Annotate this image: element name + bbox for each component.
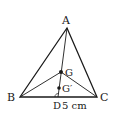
point-g-prime xyxy=(57,86,61,90)
label-d: D xyxy=(53,100,61,111)
label-g-prime: G′ xyxy=(62,83,73,94)
label-measurement: 5 cm xyxy=(62,100,87,111)
segment-gb xyxy=(20,72,61,97)
label-a: A xyxy=(61,14,71,27)
label-c: C xyxy=(100,91,108,104)
triangle-diagram: A B C G G′ D 5 cm xyxy=(0,0,120,121)
label-b: B xyxy=(7,91,15,104)
label-g: G xyxy=(65,67,73,78)
point-g xyxy=(59,70,63,74)
